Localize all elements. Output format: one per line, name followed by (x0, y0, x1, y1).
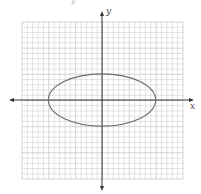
cropped-text-fragment: y (71, 0, 76, 5)
ellipse-graph (0, 0, 201, 194)
x-axis-label: x (190, 102, 195, 111)
axes (9, 11, 194, 191)
y-axis-label: y (106, 7, 111, 16)
